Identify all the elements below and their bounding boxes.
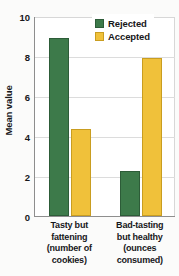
x-axis-category-label-line: cookies) (34, 255, 105, 267)
y-axis-tick-label: 6 (25, 92, 30, 103)
y-axis-tick-label: 10 (19, 12, 30, 23)
bar-rejected-group-1 (49, 38, 69, 216)
y-axis-tick-label: 2 (25, 172, 30, 183)
legend-label: Accepted (108, 31, 150, 42)
x-axis-category-label-line: fattening (34, 232, 105, 244)
plot-area (34, 17, 175, 217)
bar-accepted-group-1 (71, 129, 91, 216)
x-axis-category-labels: Tasty butfattening(number ofcookies)Bad-… (34, 220, 175, 276)
x-axis-category-label-line: Bad-tasting (105, 220, 176, 232)
bar-chart: Mean value 0246810 RejectedAccepted Tast… (0, 0, 179, 276)
plot-frame-right (174, 17, 175, 216)
x-axis-category-label-line: Tasty but (34, 220, 105, 232)
x-axis-category-label-line: (number of (34, 243, 105, 255)
legend-item-rejected[interactable]: Rejected (95, 17, 150, 29)
x-axis-category-label-line: but healthy (105, 232, 176, 244)
x-axis-category-label-line: (ounces (105, 243, 176, 255)
y-axis-tick-label: 0 (25, 212, 30, 223)
x-axis-category-label-line: consumed) (105, 255, 176, 267)
legend-swatch-accepted-icon (95, 32, 104, 41)
bar-accepted-group-2 (142, 58, 162, 216)
y-axis-tick-label: 4 (25, 132, 30, 143)
legend-label: Rejected (108, 18, 147, 29)
chart-legend: RejectedAccepted (92, 14, 154, 45)
legend-item-accepted[interactable]: Accepted (95, 30, 150, 42)
bar-rejected-group-2 (120, 171, 140, 216)
y-axis-title-text: Mean value (3, 85, 14, 135)
x-axis-category-label-1: Tasty butfattening(number ofcookies) (34, 220, 105, 276)
x-axis-category-label-2: Bad-tastingbut healthy(ouncesconsumed) (105, 220, 176, 276)
legend-swatch-rejected-icon (95, 19, 104, 28)
y-axis-tick-labels: 0246810 (14, 0, 32, 230)
y-axis-tick-label: 8 (25, 52, 30, 63)
